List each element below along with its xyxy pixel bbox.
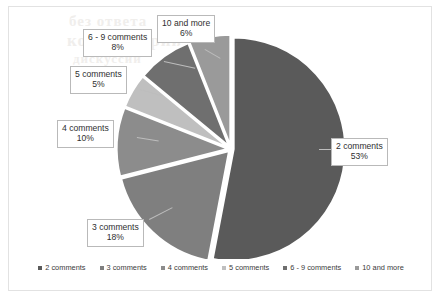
legend-item[interactable]: 2 comments — [38, 263, 85, 272]
legend-swatch-icon — [283, 266, 287, 270]
legend-item-label: 6 - 9 comments — [290, 263, 341, 272]
legend-item-label: 2 comments — [45, 263, 85, 272]
legend-item-label: 10 and more — [362, 263, 404, 272]
data-label-4-comments[interactable]: 4 comments 10% — [57, 120, 114, 148]
data-label-2-comments-category: 2 comments — [336, 141, 383, 151]
data-label-5-comments[interactable]: 5 comments 5% — [70, 66, 127, 94]
legend-item[interactable]: 4 comments — [161, 263, 208, 272]
data-label-3-comments[interactable]: 3 comments 18% — [87, 219, 144, 247]
legend-swatch-icon — [100, 266, 104, 270]
legend-swatch-icon — [222, 266, 226, 270]
data-label-6-9-comments[interactable]: 6 - 9 comments 8% — [83, 29, 152, 57]
data-label-3-comments-category: 3 comments — [92, 222, 139, 232]
legend-swatch-icon — [38, 266, 42, 270]
legend-item[interactable]: 10 and more — [355, 263, 404, 272]
data-label-10-and-more-percent: 6% — [162, 28, 210, 38]
data-label-10-and-more-category: 10 and more — [162, 18, 210, 28]
legend-item[interactable]: 3 comments — [100, 263, 147, 272]
data-label-3-comments-percent: 18% — [92, 232, 139, 242]
legend-item-label: 4 comments — [168, 263, 208, 272]
data-label-4-comments-category: 4 comments — [62, 123, 109, 133]
chart-legend: 2 comments3 comments4 comments5 comments… — [9, 263, 433, 272]
legend-item-label: 3 comments — [107, 263, 147, 272]
legend-swatch-icon — [355, 266, 359, 270]
data-label-5-comments-category: 5 comments — [75, 69, 122, 79]
data-label-6-9-comments-category: 6 - 9 comments — [88, 32, 147, 42]
legend-swatch-icon — [161, 266, 165, 270]
data-label-2-comments-percent: 53% — [336, 151, 383, 161]
data-label-5-comments-percent: 5% — [75, 79, 122, 89]
pie-slice-group — [117, 35, 346, 259]
legend-item[interactable]: 6 - 9 comments — [283, 263, 341, 272]
data-label-10-and-more[interactable]: 10 and more 6% — [157, 15, 215, 43]
legend-item-label: 5 comments — [229, 263, 269, 272]
data-label-2-comments[interactable]: 2 comments 53% — [331, 138, 388, 166]
data-label-6-9-comments-percent: 8% — [88, 42, 147, 52]
legend-item[interactable]: 5 comments — [222, 263, 269, 272]
data-label-4-comments-percent: 10% — [62, 133, 109, 143]
chart-container: без ответа комментарии дискуссии 2 comme… — [8, 6, 432, 291]
